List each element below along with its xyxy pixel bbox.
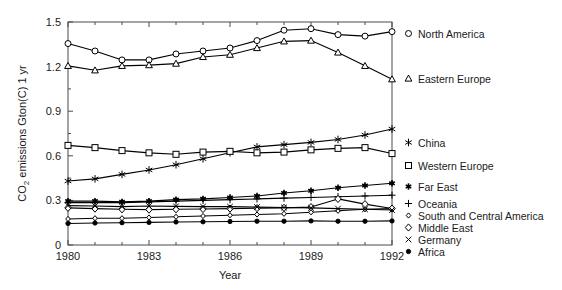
- x-tick-label: 1980: [56, 250, 80, 262]
- star-solid-icon: [402, 180, 415, 193]
- circle-open-icon: [402, 27, 415, 40]
- series-africa: [66, 219, 394, 226]
- series-markers: [65, 37, 396, 82]
- legend-item-africa[interactable]: Africa: [402, 245, 445, 258]
- x-tick-label: 1986: [218, 250, 242, 262]
- y-axis-title: CO2 emissions Gton(C) 1 yr: [16, 65, 31, 202]
- y-tick-label: 0.6: [46, 150, 61, 162]
- legend-item-label: Eastern Europe: [418, 73, 491, 85]
- y-tick-label: 0.3: [46, 194, 61, 206]
- legend-item-far-east[interactable]: Far East: [402, 180, 458, 193]
- asterisk-icon: [402, 136, 415, 149]
- legend-item-western-europe[interactable]: Western Europe: [402, 159, 494, 172]
- legend-item-label: North America: [418, 28, 485, 40]
- legend-item-label: Germany: [418, 234, 461, 246]
- circle-solid-icon: [402, 245, 415, 258]
- triangle-open-icon: [402, 72, 415, 85]
- legend-item-label: Oceania: [418, 198, 457, 210]
- legend-item-eastern-europe[interactable]: Eastern Europe: [402, 72, 491, 85]
- square-open-icon: [402, 159, 415, 172]
- x-tick-label: 1983: [137, 250, 161, 262]
- series-oceania: [64, 192, 395, 207]
- x-axis-title: Year: [219, 269, 242, 281]
- legend-item-label: Western Europe: [418, 160, 494, 172]
- legend-item-label: China: [418, 137, 445, 149]
- series-china: [65, 125, 396, 185]
- y-tick-label: 0: [55, 239, 61, 251]
- series-markers: [66, 219, 394, 226]
- chart-figure: 1980198319861989199200.30.60.91.21.5 Yea…: [0, 0, 562, 290]
- chart-legend: North AmericaEastern EuropeChinaWestern …: [402, 0, 562, 290]
- y-tick-label: 1.5: [46, 16, 61, 28]
- series-markers: [64, 192, 395, 207]
- legend-item-label: Far East: [418, 181, 458, 193]
- data-series-group: [64, 26, 395, 226]
- legend-item-north-america[interactable]: North America: [402, 27, 485, 40]
- legend-item-label: South and Central America: [418, 210, 544, 222]
- legend-item-label: Africa: [418, 246, 445, 258]
- legend-item-label: Middle East: [418, 222, 473, 234]
- legend-item-china[interactable]: China: [402, 136, 445, 149]
- series-eastern-europe: [65, 37, 396, 82]
- y-tick-label: 1.2: [46, 61, 61, 73]
- y-tick-label: 0.9: [46, 105, 61, 117]
- x-tick-label: 1992: [380, 250, 404, 262]
- x-tick-label: 1989: [299, 250, 323, 262]
